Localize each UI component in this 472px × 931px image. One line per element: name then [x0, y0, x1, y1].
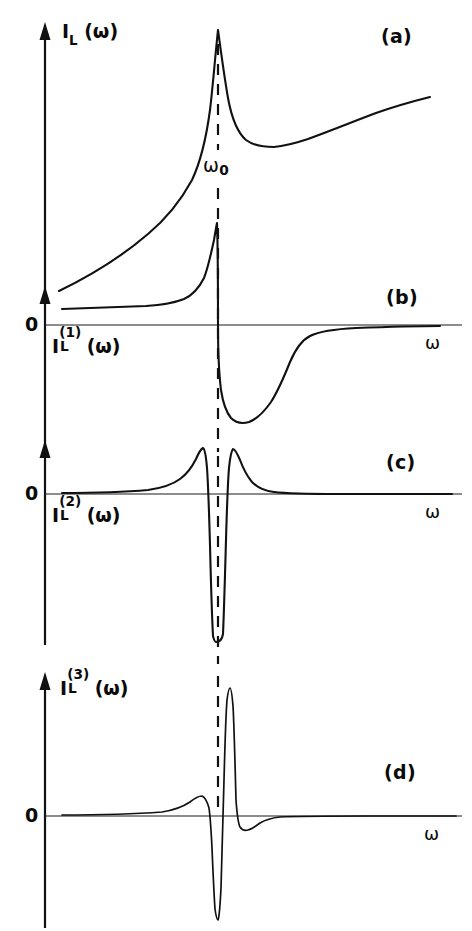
panel-a-group — [40, 22, 431, 302]
panel-b-y-axis-label: I(1)L(ω) — [52, 334, 121, 356]
panel-b-zero-tick-label: 0 — [25, 315, 38, 334]
panel-d-y-axis-label-sub: L — [68, 682, 77, 696]
panel-b-x-axis-label: ω — [425, 334, 440, 352]
panel-c-y-axis-arrowhead — [40, 440, 51, 458]
panel-b-y-axis-label-base: I — [52, 335, 59, 357]
panel-c-y-axis-label: I(2)L(ω) — [52, 503, 121, 525]
panel-c-y-axis-label-sub: L — [60, 509, 69, 523]
panel-b-y-axis-arrowhead — [40, 286, 51, 304]
panel-d-y-axis-label: I(3)L(ω) — [60, 676, 129, 698]
resonance-frequency-label: ω0 — [203, 156, 228, 175]
panel-letter-b: (b) — [386, 288, 418, 307]
resonance-frequency-subscript: 0 — [219, 162, 229, 178]
panel-d-group — [40, 672, 463, 928]
panel-letter-c: (c) — [386, 453, 416, 472]
panel-d-y-axis-label-arg: (ω) — [95, 677, 129, 699]
panel-letter-a: (a) — [381, 27, 412, 46]
panel-a-y-axis-label: IL (ω) — [62, 22, 118, 45]
panel-d-x-axis-label: ω — [424, 825, 439, 843]
panel-d-y-axis — [40, 672, 51, 928]
panel-d-curve — [62, 688, 456, 920]
panel-letter-d: (d) — [384, 763, 416, 782]
panel-a-y-axis — [40, 22, 51, 302]
panel-b-y-axis-label-script: (1)L — [59, 334, 87, 353]
panel-c-y-axis-label-base: I — [52, 504, 59, 526]
panel-b-y-axis-label-arg: (ω) — [87, 335, 121, 357]
panel-b-y-axis-label-sub: L — [60, 340, 69, 354]
panel-a-curve — [59, 30, 430, 291]
panel-c-zero-tick-label: 0 — [25, 484, 38, 503]
panel-c-y-axis-label-arg: (ω) — [87, 504, 121, 526]
panel-b-y-axis — [40, 286, 51, 452]
panel-a-y-axis-arrowhead — [40, 22, 51, 40]
resonance-frequency-symbol: ω — [203, 154, 219, 176]
panel-d-zero-tick-label: 0 — [25, 806, 38, 825]
panel-c-y-axis-label-script: (2)L — [59, 503, 87, 522]
panel-b-curve — [62, 223, 440, 423]
panel-d-y-axis-arrowhead — [40, 672, 51, 690]
panel-a-y-axis-label-arg: (ω) — [84, 20, 118, 42]
panel-c-curve — [62, 448, 452, 642]
figure-root: IL (ω) (a) ω0 0 I(1)L(ω) (b) ω 0 I(2)L(ω… — [0, 0, 472, 931]
panel-d-y-axis-label-base: I — [60, 677, 67, 699]
panel-c-y-axis — [40, 440, 51, 645]
panel-c-x-axis-label: ω — [425, 503, 440, 521]
panel-d-y-axis-label-script: (3)L — [67, 676, 95, 695]
panel-a-y-axis-label-sub: L — [69, 33, 77, 48]
